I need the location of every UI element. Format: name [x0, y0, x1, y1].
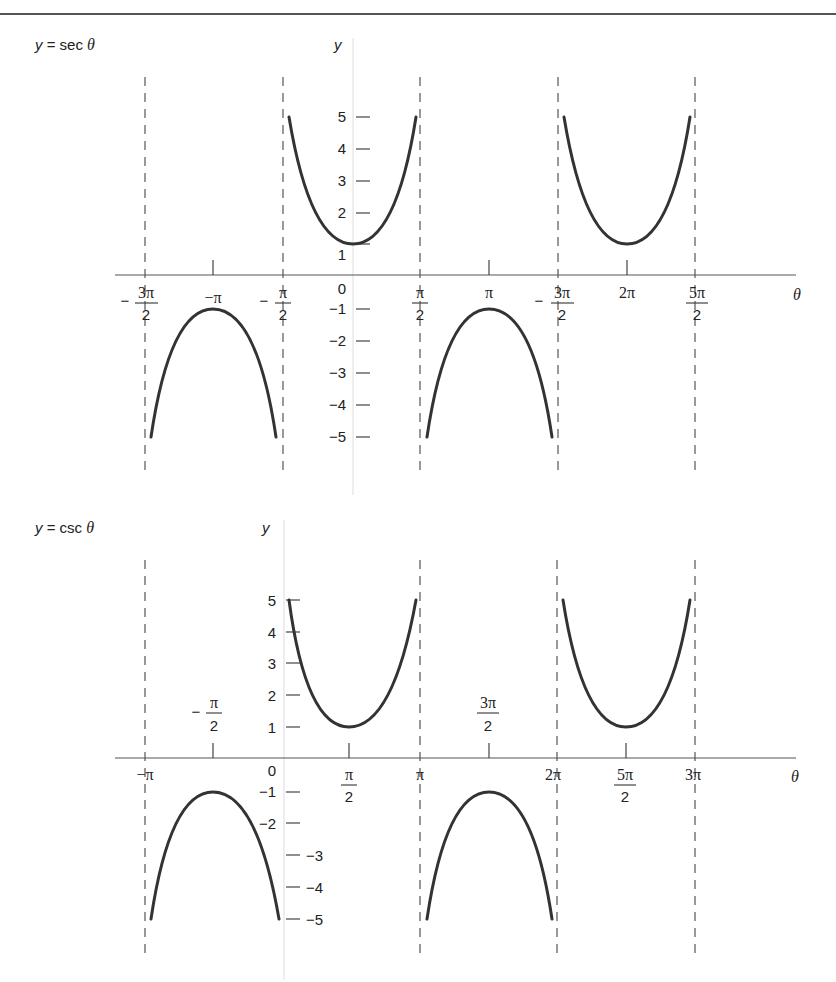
svg-text:2: 2 [693, 306, 701, 323]
sec-branch-3 [427, 309, 552, 437]
sec-theta-label: θ [793, 286, 801, 303]
sec-y-tick-labels: 5 4 3 2 1 0 −1 −2 −3 −4 −5 [329, 108, 346, 445]
svg-text:−2: −2 [329, 332, 346, 349]
svg-text:−5: −5 [306, 911, 323, 928]
csc-title: y = csc θ [34, 519, 94, 536]
sec-branch-1 [151, 309, 276, 437]
csc-branch-2 [289, 600, 416, 727]
svg-text:−4: −4 [329, 396, 346, 413]
svg-text:−4: −4 [306, 879, 323, 896]
svg-text:2: 2 [345, 788, 353, 805]
sec-graph: y = sec θ y [34, 36, 801, 495]
svg-text:π: π [416, 284, 424, 301]
svg-text:3π: 3π [685, 766, 701, 783]
csc-asymptotes [145, 560, 695, 958]
svg-text:π: π [416, 766, 424, 783]
sec-x-tick-labels: − 3π 2 −π − π 2 π 2 π − 3π 2 2π 5π [121, 284, 801, 323]
svg-text:2: 2 [338, 204, 346, 221]
svg-text:3π: 3π [554, 284, 570, 301]
svg-text:−3: −3 [329, 364, 346, 381]
svg-text:2: 2 [484, 717, 492, 734]
svg-text:−: − [260, 292, 269, 309]
svg-text:2: 2 [416, 306, 424, 323]
csc-branch-4 [563, 600, 690, 727]
svg-text:2π: 2π [545, 766, 561, 783]
svg-text:−2: −2 [259, 815, 276, 832]
svg-text:−1: −1 [329, 300, 346, 317]
svg-text:−: − [121, 292, 130, 309]
svg-text:π: π [279, 284, 287, 301]
csc-branch-3 [427, 792, 552, 919]
csc-branch-1 [151, 792, 279, 919]
sec-branch-4 [564, 117, 690, 244]
csc-theta-label: θ [791, 768, 799, 785]
sec-y-ticks [356, 117, 370, 437]
svg-text:−1: −1 [259, 783, 276, 800]
trig-graphs: y = sec θ y [0, 0, 836, 982]
svg-text:−: − [192, 703, 201, 720]
svg-text:5: 5 [268, 592, 276, 609]
csc-x-tick-labels: −π − π 2 π 2 π 3π 2 2π 5π 2 3π θ [136, 694, 799, 805]
csc-graph: y = csc θ y 5 4 3 [34, 519, 799, 980]
svg-text:3π: 3π [480, 694, 496, 711]
svg-text:3: 3 [268, 655, 276, 672]
svg-text:0: 0 [338, 280, 346, 297]
sec-title: y = sec θ [34, 36, 95, 53]
sec-asymptotes [145, 77, 695, 475]
svg-text:2: 2 [279, 306, 287, 323]
csc-y-axis-label: y [261, 519, 271, 536]
svg-text:2: 2 [210, 717, 218, 734]
svg-text:−: − [535, 292, 544, 309]
svg-text:3: 3 [338, 172, 346, 189]
svg-text:4: 4 [338, 140, 346, 157]
svg-text:5π: 5π [617, 766, 633, 783]
svg-text:2: 2 [142, 306, 150, 323]
svg-text:1: 1 [268, 719, 276, 736]
svg-text:−π: −π [204, 289, 221, 306]
svg-text:0: 0 [268, 762, 276, 779]
svg-text:1: 1 [338, 246, 346, 263]
sec-y-axis-label: y [333, 36, 343, 53]
svg-text:2: 2 [621, 788, 629, 805]
svg-text:5: 5 [338, 108, 346, 125]
svg-text:π: π [210, 694, 218, 711]
svg-text:2: 2 [268, 687, 276, 704]
svg-text:2π: 2π [619, 284, 635, 301]
svg-text:5π: 5π [689, 284, 705, 301]
svg-text:π: π [345, 766, 353, 783]
svg-text:π: π [485, 284, 493, 301]
svg-text:−π: −π [136, 766, 153, 783]
svg-text:2: 2 [558, 306, 566, 323]
svg-text:3π: 3π [138, 284, 154, 301]
svg-text:−3: −3 [306, 847, 323, 864]
svg-text:4: 4 [268, 624, 276, 641]
csc-y-tick-labels: 5 4 3 2 1 0 −1 −2 −3 −4 −5 [259, 592, 323, 928]
svg-text:−5: −5 [329, 428, 346, 445]
